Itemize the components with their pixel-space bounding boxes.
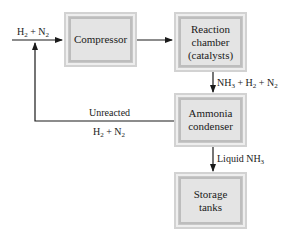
input-label: H2 + N2 xyxy=(17,26,49,37)
reaction-label-line2: chamber xyxy=(188,36,233,49)
liquid-nh3-label: Liquid NH3 xyxy=(217,153,264,164)
condenser-label-line2: condenser xyxy=(188,120,233,133)
reaction-output-nh: NH xyxy=(217,77,231,88)
ammonia-condenser-box: Ammonia condenser xyxy=(174,93,247,147)
reaction-label-line3: (catalysts) xyxy=(188,49,233,62)
storage-label-line2: tanks xyxy=(194,201,228,214)
reaction-chamber-box: Reaction chamber (catalysts) xyxy=(174,12,247,72)
liquid-nh3-text: Liquid NH xyxy=(217,153,261,164)
unreacted-n: + N xyxy=(104,126,122,137)
condenser-label-line1: Ammonia xyxy=(188,107,233,120)
reaction-label-line1: Reaction xyxy=(188,23,233,36)
reaction-output-h: + H xyxy=(235,77,253,88)
compressor-box: Compressor xyxy=(64,12,137,67)
compressor-label: Compressor xyxy=(74,33,127,46)
unreacted-text: Unreacted xyxy=(89,107,130,118)
reaction-output-sub3: 2 xyxy=(274,82,278,90)
reaction-output-label: NH3 + H2 + N2 xyxy=(217,77,278,88)
input-label-n: + N xyxy=(28,26,46,37)
storage-label-line1: Storage xyxy=(194,188,228,201)
reaction-output-n: + N xyxy=(256,77,274,88)
liquid-nh3-sub: 3 xyxy=(261,158,265,166)
input-label-sub2: 2 xyxy=(46,31,50,39)
storage-tanks-box: Storage tanks xyxy=(174,172,247,229)
unreacted-sub2: 2 xyxy=(122,131,126,139)
unreacted-gases-label: H2 + N2 xyxy=(93,126,125,137)
unreacted-label: Unreacted xyxy=(89,107,130,118)
